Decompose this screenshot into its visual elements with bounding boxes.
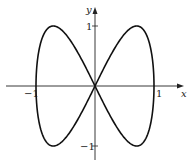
y-axis-label: y [85, 4, 92, 15]
x-tick-label-neg1: −1 [24, 88, 39, 99]
y-tick-label-1: 1 [86, 21, 92, 32]
x-axis-label: x [181, 88, 187, 99]
y-tick-label-neg1: −1 [80, 141, 95, 152]
plot: x y −1 1 1 −1 [0, 0, 188, 166]
y-axis-arrow-icon [93, 7, 98, 14]
x-tick-label-1: 1 [156, 88, 162, 99]
